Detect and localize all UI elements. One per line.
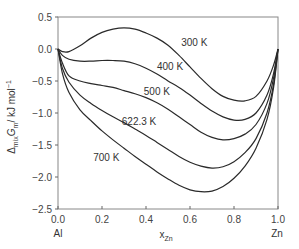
curve-label: 300 K bbox=[181, 37, 207, 48]
curves bbox=[58, 28, 278, 192]
x-tick-label: 0.4 bbox=[139, 214, 153, 225]
y-tick-label: −1.0 bbox=[32, 108, 52, 119]
x-tick-label: 0.8 bbox=[227, 214, 241, 225]
mixing-gibbs-energy-chart: 0.50.0−0.5−1.0−1.5−2.0−2.5 0.00.20.40.60… bbox=[0, 0, 299, 249]
y-axis-ticks: 0.50.0−0.5−1.0−1.5−2.0−2.5 bbox=[32, 12, 58, 215]
curve-label: 700 K bbox=[93, 152, 119, 163]
curve-label: 400 K bbox=[157, 61, 183, 72]
y-axis-title: ΔmixGm/ kJ mol−1 bbox=[5, 80, 19, 154]
x-tick-label: 1.0 bbox=[271, 214, 285, 225]
y-tick-label: 0.0 bbox=[38, 44, 52, 55]
x-tick-label: 0.6 bbox=[183, 214, 197, 225]
y-tick-label: −2.5 bbox=[32, 204, 52, 215]
x-tick-label: 0.2 bbox=[95, 214, 109, 225]
x-axis-title-sub: Zn bbox=[164, 235, 172, 242]
y-tick-label: 0.5 bbox=[38, 12, 52, 23]
y-tick-label: −1.5 bbox=[32, 140, 52, 151]
curve-label: 500 K bbox=[144, 86, 170, 97]
y-axis-title-sup: −1 bbox=[5, 80, 12, 88]
x-tick-label: 0.0 bbox=[51, 214, 65, 225]
y-tick-label: −2.0 bbox=[32, 172, 52, 183]
x-end-label-zn: Zn bbox=[271, 228, 283, 239]
x-axis-title: xZn bbox=[159, 229, 172, 242]
y-tick-label: −0.5 bbox=[32, 76, 52, 87]
curve-label: 622.3 K bbox=[122, 116, 157, 127]
y-axis-title-sub-mix: mix bbox=[12, 136, 19, 147]
y-axis-title-unit: / kJ mol bbox=[6, 88, 17, 122]
x-end-label-al: Al bbox=[54, 228, 63, 239]
